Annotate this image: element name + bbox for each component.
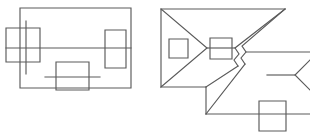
lower-diagonal-up — [206, 66, 238, 87]
figure-right-folded-polygon-with-three-squares — [155, 0, 310, 133]
right-square — [105, 30, 126, 68]
upper-body-outline — [161, 9, 207, 87]
right-chevron — [295, 60, 310, 90]
figure-left-rectangle-with-three-squares — [0, 0, 155, 133]
drawing-canvas — [0, 0, 310, 133]
lower-diagonal-down — [206, 64, 245, 114]
left-small-square — [169, 39, 188, 58]
bottom-square — [56, 62, 89, 90]
upper-right-fold — [241, 9, 285, 64]
bottom-right-square — [259, 101, 286, 131]
left-square — [6, 28, 40, 62]
